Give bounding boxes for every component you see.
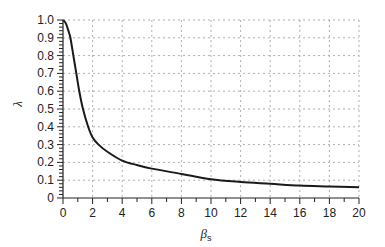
y-tick-labels: 00.10.20.30.40.50.60.70.80.91.0 (37, 13, 54, 205)
x-tick-label: 10 (204, 206, 218, 220)
grid-lines (63, 20, 359, 198)
x-tick-label: 2 (89, 206, 96, 220)
y-tick-label: 0.8 (37, 49, 54, 63)
x-tick-label: 20 (352, 206, 366, 220)
x-tick-label: 4 (119, 206, 126, 220)
x-tick-label: 18 (323, 206, 337, 220)
x-tick-label: 0 (60, 206, 67, 220)
x-tick-label: 14 (264, 206, 278, 220)
y-tick-label: 0.6 (37, 84, 54, 98)
y-tick-label: 0 (47, 191, 54, 205)
x-tick-label: 12 (234, 206, 248, 220)
x-tick-labels: 02468101214161820 (60, 206, 366, 220)
y-axis-label: λ (10, 101, 25, 108)
y-tick-label: 0.3 (37, 138, 54, 152)
x-tick-label: 6 (148, 206, 155, 220)
y-tick-label: 0.9 (37, 31, 54, 45)
y-tick-label: 0.5 (37, 102, 54, 116)
line-chart: 00.10.20.30.40.50.60.70.80.91.0 02468101… (0, 0, 385, 247)
y-tick-label: 0.4 (37, 120, 54, 134)
x-axis-label: βs (200, 226, 212, 243)
axes (57, 20, 359, 204)
x-tick-label: 16 (293, 206, 307, 220)
y-tick-label: 1.0 (37, 13, 54, 27)
y-tick-label: 0.1 (37, 173, 54, 187)
y-tick-label: 0.2 (37, 155, 54, 169)
x-tick-label: 8 (178, 206, 185, 220)
y-tick-label: 0.7 (37, 66, 54, 80)
